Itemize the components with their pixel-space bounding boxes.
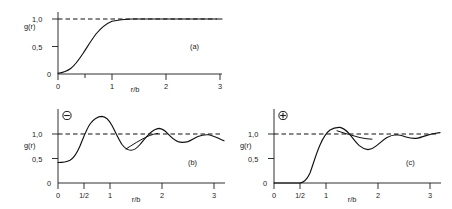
circled-minus-icon bbox=[63, 111, 71, 119]
panel-c-xlabel: r/b bbox=[348, 195, 357, 204]
panel-a-xticklabel-0: 0 bbox=[56, 82, 60, 91]
panel-a-yticklabel-0.5: 0,5 bbox=[32, 43, 42, 52]
panel-c-label: (c) bbox=[406, 158, 415, 167]
panel-a-xticklabel-3: 3 bbox=[218, 82, 222, 91]
panel-a: g(r) 1,0 0,5 0 0 1 2 3 r/b bbox=[22, 2, 232, 94]
panel-b-yticklabel-1: 1,0 bbox=[32, 130, 42, 139]
circled-plus-icon bbox=[279, 111, 287, 119]
panel-b-xticklabel-half: 1/2 bbox=[79, 192, 89, 199]
panel-c-yticklabel-0.5: 0,5 bbox=[248, 155, 258, 164]
panel-b-xticklabel-2: 2 bbox=[160, 191, 164, 200]
panel-b-xlabel: r/b bbox=[132, 195, 141, 204]
panel-c-yticklabel-1: 1,0 bbox=[248, 130, 258, 139]
panel-b-branch-segment bbox=[126, 133, 158, 149]
panel-a-yticklabel-1: 1,0 bbox=[32, 15, 42, 24]
panel-c-xticklabel-2: 2 bbox=[376, 191, 380, 200]
panel-c-branch-segment bbox=[337, 131, 372, 139]
panel-c-xticklabel-half: 1/2 bbox=[295, 192, 305, 199]
panel-c: g(r) 1,0 0,5 0 0 1/2 1 2 3 r/b (c bbox=[238, 103, 448, 207]
panel-c-xticklabel-1: 1 bbox=[324, 191, 328, 200]
panel-c-curve bbox=[274, 127, 440, 183]
panel-c-xticklabel-0: 0 bbox=[272, 191, 276, 200]
panel-a-xticklabel-1: 1 bbox=[110, 82, 114, 91]
panel-a-plot: g(r) 1,0 0,5 0 0 1 2 3 r/b bbox=[22, 2, 232, 94]
panel-a-xlabel: r/b bbox=[131, 85, 140, 94]
panel-c-plot: g(r) 1,0 0,5 0 0 1/2 1 2 3 r/b (c bbox=[238, 103, 448, 207]
panel-a-label: (a) bbox=[190, 42, 199, 51]
figure-pair-correlation-functions: g(r) 1,0 0,5 0 0 1 2 3 r/b bbox=[0, 0, 452, 209]
panel-b-yticklabel-0: 0 bbox=[47, 179, 51, 188]
panel-b-xticklabel-1: 1 bbox=[108, 191, 112, 200]
panel-b-plot: g(r) 1,0 0,5 0 0 1/2 1 2 3 r/b bbox=[22, 103, 232, 207]
panel-a-xticklabel-2: 2 bbox=[164, 82, 168, 91]
panel-c-xticklabel-3: 3 bbox=[428, 191, 432, 200]
panel-b-yticklabel-0.5: 0,5 bbox=[32, 155, 42, 164]
panel-b-ylabel: g(r) bbox=[24, 141, 36, 150]
panel-c-ylabel: g(r) bbox=[240, 141, 252, 150]
panel-b: g(r) 1,0 0,5 0 0 1/2 1 2 3 r/b bbox=[22, 103, 232, 207]
panel-b-label: (b) bbox=[188, 158, 197, 167]
panel-a-yticklabel-0: 0 bbox=[47, 70, 51, 79]
panel-b-xticklabel-3: 3 bbox=[212, 191, 216, 200]
panel-b-xticklabel-0: 0 bbox=[56, 191, 60, 200]
panel-c-yticklabel-0: 0 bbox=[263, 179, 267, 188]
